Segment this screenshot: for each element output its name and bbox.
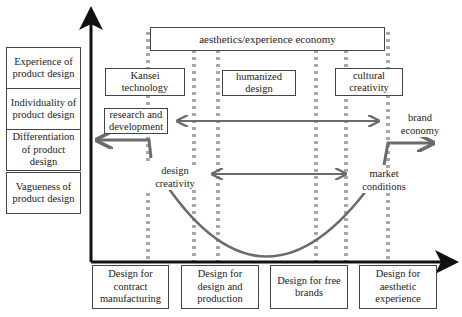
x-box-free-brands: Design for free brands [270, 265, 348, 309]
y-box-differentiation: Differentiation of product design [6, 129, 81, 171]
box-research-development: research and development [104, 108, 168, 134]
x-box-design-production: Design for design and production [181, 265, 259, 309]
dotted-guides [148, 32, 388, 262]
y-box-individuality: Individuality of product design [6, 88, 81, 130]
box-humanized-design: humanized design [222, 70, 296, 96]
label-design-creativity: design creativity [145, 165, 205, 190]
label-brand-economy: brand economy [390, 112, 450, 137]
box-cultural-creativity: cultural creativity [335, 68, 403, 96]
top-box-aesthetics-economy: aesthetics/experience economy [150, 27, 385, 51]
label-market-conditions: market conditions [354, 168, 414, 193]
y-box-vagueness: Vagueness of product design [6, 172, 81, 214]
x-box-contract-manufacturing: Design for contract manufacturing [92, 265, 169, 309]
box-kansei-technology: Kansei technology [105, 68, 185, 96]
y-box-experience: Experience of product design [6, 47, 81, 89]
x-box-aesthetic-experience: Design for aesthetic experience [359, 265, 437, 309]
